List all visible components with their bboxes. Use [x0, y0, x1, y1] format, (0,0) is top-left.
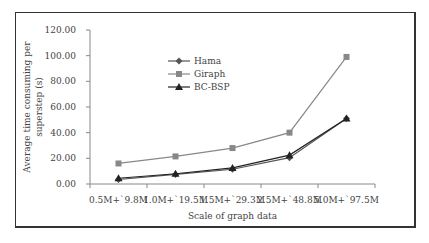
- line-chart: 0.0020.0040.0060.0080.00100.00120.000.5M…: [0, 0, 429, 243]
- y-tick-label: 120.00: [45, 25, 77, 35]
- y-tick-label: 80.00: [50, 76, 76, 86]
- legend-label-giraph: Giraph: [194, 69, 225, 79]
- x-axis-label: Scale of graph data: [188, 211, 278, 221]
- legend-label-hama: Hama: [194, 56, 222, 66]
- y-axis-label-line1: Average time consuming per: [22, 41, 32, 174]
- x-tick-label: 0.5M+`9.8M: [89, 195, 148, 205]
- y-tick-label: 100.00: [45, 51, 77, 61]
- data-point-bc-bsp: [286, 151, 294, 158]
- data-point-giraph: [344, 54, 350, 60]
- x-tick-label: 1.0M+`19.5M: [143, 195, 208, 205]
- legend-marker-giraph: [176, 71, 182, 77]
- data-point-giraph: [173, 153, 179, 159]
- data-point-giraph: [230, 145, 236, 151]
- y-axis-label-line2: superstep (s): [34, 77, 44, 137]
- x-tick-label: 2.5M+`48.8M: [257, 195, 322, 205]
- legend-marker-hama: [176, 58, 183, 65]
- data-point-giraph: [287, 130, 293, 136]
- x-tick-label: 1.5M+`29.3M: [200, 195, 265, 205]
- y-tick-label: 60.00: [50, 102, 76, 112]
- data-point-giraph: [116, 160, 122, 166]
- legend-label-bc-bsp: BC-BSP: [194, 82, 230, 92]
- y-tick-label: 20.00: [50, 153, 76, 163]
- y-tick-label: 0.00: [56, 179, 76, 189]
- x-tick-label: 5.0M+`97.5M: [314, 195, 379, 205]
- y-tick-label: 40.00: [50, 128, 76, 138]
